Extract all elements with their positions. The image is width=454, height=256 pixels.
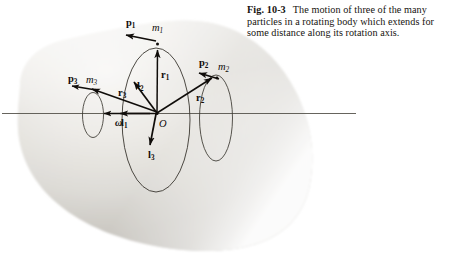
figure-caption: Fig. 10-3The motion of three of the many… xyxy=(247,4,449,39)
figure-10-3: p1 m1 r1 l2 l1 l3 ω O r2 p2 xyxy=(0,0,454,256)
particle-dot-m2 xyxy=(216,77,219,80)
particle-dot-m3 xyxy=(94,89,97,92)
label-omega: ω xyxy=(115,117,122,128)
rotating-body xyxy=(18,20,313,251)
particle-dot-m1 xyxy=(156,43,159,46)
origin-dot xyxy=(155,112,158,115)
label-origin: O xyxy=(159,118,167,129)
vector-r1 xyxy=(157,50,158,113)
figure-number: Fig. 10-3 xyxy=(247,4,286,15)
body-top-highlight xyxy=(18,20,313,251)
